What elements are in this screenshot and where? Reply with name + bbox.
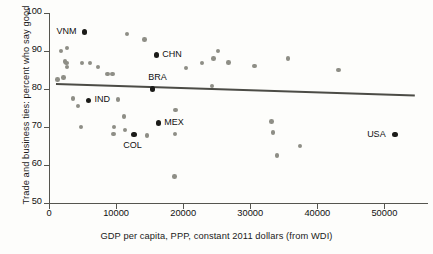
data-point — [252, 64, 257, 69]
data-point — [125, 32, 130, 37]
data-point — [145, 133, 150, 138]
data-point — [80, 61, 85, 66]
x-tick-label: 0 — [19, 208, 79, 218]
point-label-usa: USA — [367, 129, 386, 139]
x-axis-line — [49, 203, 428, 204]
data-point-ind — [86, 98, 92, 104]
data-point — [96, 65, 101, 70]
y-axis-line — [49, 13, 50, 204]
y-tick — [44, 13, 49, 14]
data-point — [142, 37, 147, 42]
data-point — [123, 128, 128, 133]
y-axis-title: Trade and business ties: percent who say… — [21, 0, 31, 215]
data-point — [271, 130, 276, 135]
data-point — [216, 49, 221, 54]
data-point — [269, 119, 274, 124]
data-point — [88, 61, 93, 66]
data-point — [336, 68, 341, 73]
x-tick-label: 10000 — [86, 208, 146, 218]
data-point — [122, 114, 127, 119]
data-point-chn — [154, 52, 160, 58]
data-point — [55, 77, 60, 82]
data-point — [184, 66, 189, 71]
point-label-ind: IND — [95, 94, 111, 104]
point-label-mex: MEX — [164, 117, 184, 127]
data-point — [105, 72, 110, 77]
data-point-bra — [150, 86, 156, 92]
point-label-vnm: VNM — [57, 26, 77, 36]
y-tick — [44, 89, 49, 90]
y-tick — [44, 51, 49, 52]
data-point — [286, 56, 291, 61]
data-point — [200, 61, 205, 66]
data-point — [116, 97, 121, 102]
data-point — [65, 46, 70, 51]
data-point-mex — [156, 120, 162, 126]
y-tick-label: 60 — [2, 158, 42, 168]
data-point — [110, 72, 115, 77]
x-tick-label: 20000 — [153, 208, 213, 218]
y-tick — [44, 165, 49, 166]
data-point — [298, 144, 303, 149]
y-tick-label: 50 — [2, 196, 42, 206]
data-point — [112, 125, 117, 130]
y-tick-label: 80 — [2, 82, 42, 92]
y-tick-label: 70 — [2, 120, 42, 130]
data-point — [59, 49, 64, 54]
data-point — [79, 125, 84, 130]
data-point — [172, 174, 177, 179]
data-point-vnm — [82, 29, 88, 35]
x-tick-label: 30000 — [220, 208, 280, 218]
scatter-chart: Trade and business ties: percent who say… — [0, 0, 433, 254]
point-label-col: COL — [123, 140, 142, 150]
data-point — [61, 75, 66, 80]
point-label-bra: BRA — [148, 72, 167, 82]
data-point-usa — [392, 132, 398, 138]
data-point — [275, 153, 280, 158]
data-point — [111, 132, 116, 137]
data-point — [76, 104, 81, 109]
data-point — [65, 65, 70, 70]
y-tick-label: 90 — [2, 44, 42, 54]
data-point — [211, 56, 216, 61]
x-axis-title: GDP per capita, PPP, constant 2011 dolla… — [0, 231, 433, 241]
x-tick-label: 50000 — [354, 208, 414, 218]
data-point — [173, 108, 178, 113]
point-label-chn: CHN — [162, 49, 182, 59]
data-point — [71, 96, 76, 101]
data-point — [173, 132, 178, 137]
data-point-col — [131, 132, 137, 138]
y-tick — [44, 127, 49, 128]
x-tick-label: 40000 — [287, 208, 347, 218]
data-point — [226, 60, 231, 65]
y-tick-label: 100 — [2, 6, 42, 16]
